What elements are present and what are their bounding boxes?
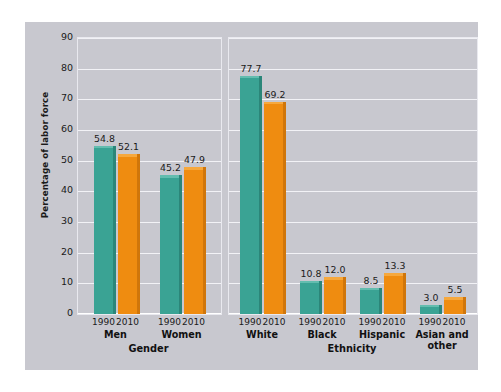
- bar-hispanic-1990: [360, 288, 382, 314]
- bar-chart: Percentage of labor force 90807060504030…: [0, 0, 501, 392]
- bar-asian-and-other-1990: [420, 305, 442, 314]
- y-axis-tick: 30: [61, 216, 73, 226]
- gridline: [78, 130, 221, 131]
- x-axis-year-label: 2010: [440, 317, 468, 327]
- bar-asian-and-other-2010: [444, 297, 466, 314]
- x-axis-year-label: 2010: [380, 317, 408, 327]
- bar-men-2010: [118, 154, 140, 314]
- x-axis-year-label: 2010: [114, 317, 142, 327]
- y-axis-tick: 80: [61, 63, 73, 73]
- bar-value-label: 77.7: [233, 63, 269, 74]
- bar-value-label: 13.3: [377, 260, 413, 271]
- x-axis-category-label: Women: [145, 329, 219, 340]
- bar-women-1990: [160, 175, 182, 314]
- bar-women-2010: [184, 167, 206, 314]
- bar-white-1990: [240, 76, 262, 314]
- gridline: [78, 99, 221, 100]
- y-axis-tick: 0: [67, 308, 73, 318]
- x-axis-group-title: Ethnicity: [228, 343, 476, 354]
- y-axis-tick: 40: [61, 185, 73, 195]
- gridline: [78, 38, 221, 39]
- gridline: [78, 69, 221, 70]
- bar-men-1990: [94, 146, 116, 314]
- bar-hispanic-2010: [384, 273, 406, 314]
- y-axis-tick: 10: [61, 277, 73, 287]
- y-axis-tick: 90: [61, 32, 73, 42]
- gridline: [229, 38, 477, 39]
- bar-black-1990: [300, 281, 322, 314]
- plot-area-ethnicity: 77.769.210.812.08.513.33.05.5: [228, 37, 478, 315]
- bar-white-2010: [264, 102, 286, 314]
- bar-black-2010: [324, 277, 346, 314]
- x-axis-group-title: Gender: [77, 343, 220, 354]
- chart-panel: Percentage of labor force 90807060504030…: [25, 22, 478, 370]
- x-axis-year-label: 2010: [320, 317, 348, 327]
- bar-value-label: 5.5: [437, 284, 473, 295]
- plot-area-gender: 54.852.145.247.9: [77, 37, 222, 315]
- bar-value-label: 47.9: [177, 154, 213, 165]
- y-axis-tick: 50: [61, 155, 73, 165]
- y-axis-tick-labels: 9080706050403020100: [47, 22, 73, 370]
- bar-value-label: 52.1: [111, 141, 147, 152]
- y-axis-tick: 60: [61, 124, 73, 134]
- x-axis-year-label: 2010: [260, 317, 288, 327]
- y-axis-tick: 70: [61, 93, 73, 103]
- x-axis-year-label: 2010: [180, 317, 208, 327]
- y-axis-tick: 20: [61, 247, 73, 257]
- bar-value-label: 69.2: [257, 89, 293, 100]
- bar-value-label: 12.0: [317, 264, 353, 275]
- x-axis-category-label: Men: [79, 329, 153, 340]
